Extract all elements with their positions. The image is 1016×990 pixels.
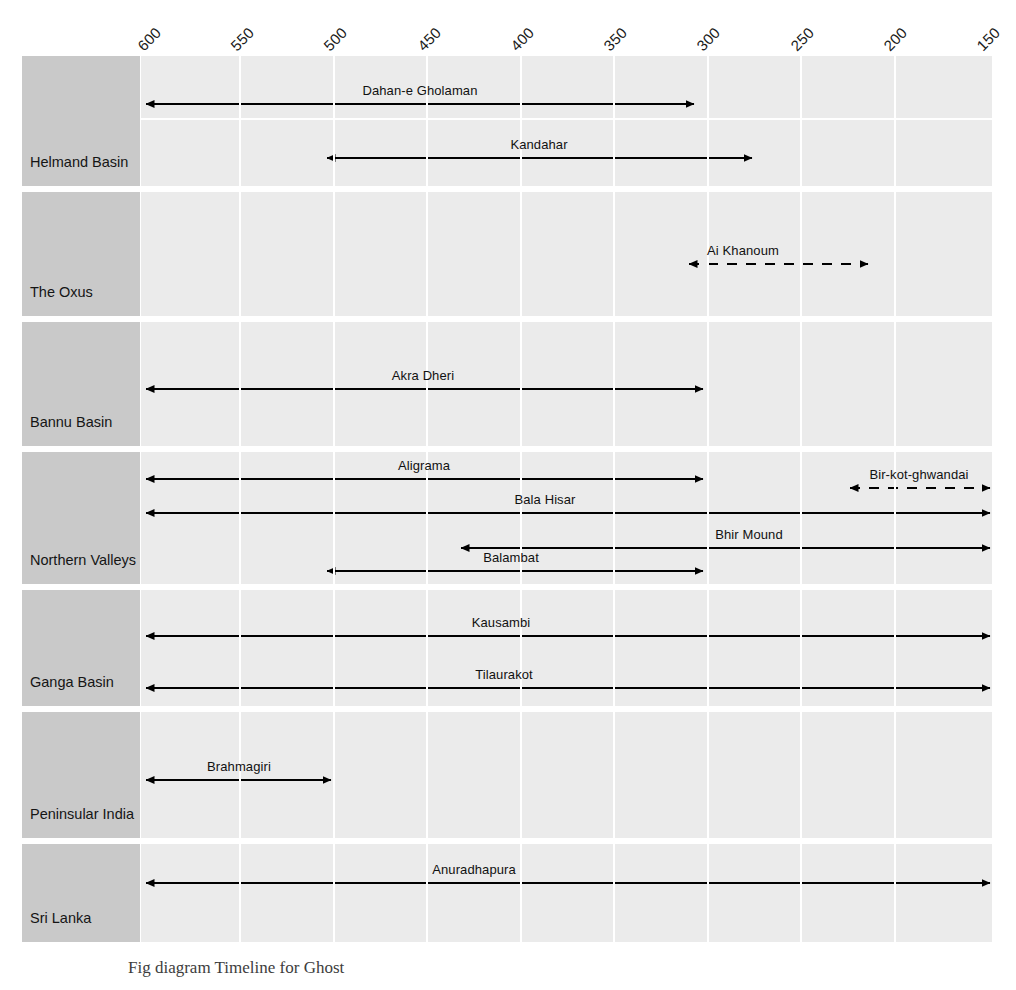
timeline-bar-label-dahan-e-gholaman: Dahan-e Gholaman <box>362 83 477 98</box>
timeline-plot-area: Dahan-e GholamanKandaharAi KhanoumAkra D… <box>141 56 992 942</box>
region-label-text: The Oxus <box>30 283 93 302</box>
region-label-sri-lanka: Sri Lanka <box>22 844 140 942</box>
gridline-550 <box>239 56 241 942</box>
gridline-500 <box>333 56 335 942</box>
region-label-column: Helmand BasinThe OxusBannu BasinNorthern… <box>22 56 140 942</box>
x-axis-tick-labels: 600550500450400350300250200150 <box>0 0 1016 56</box>
axis-tick-400: 400 <box>507 24 537 54</box>
region-label-the-oxus: The Oxus <box>22 192 140 316</box>
axis-tick-500: 500 <box>320 24 350 54</box>
region-label-text: Peninsular India <box>30 805 134 824</box>
plot-band-the-oxus <box>141 192 992 316</box>
axis-tick-600: 600 <box>134 24 164 54</box>
region-label-helmand-basin: Helmand Basin <box>22 56 140 186</box>
region-label-northern-valleys: Northern Valleys <box>22 452 140 584</box>
timeline-bar-label-brahmagiri: Brahmagiri <box>207 759 271 774</box>
region-label-text: Ganga Basin <box>30 673 114 692</box>
plot-band-helmand-basin <box>141 56 992 186</box>
figure-caption: Fig diagram Timeline for Ghost <box>128 958 828 990</box>
timeline-bar-label-balambat: Balambat <box>483 550 539 565</box>
timeline-bar-label-aligrama: Aligrama <box>398 458 450 473</box>
timeline-bar-label-bala-hisar: Bala Hisar <box>515 492 576 507</box>
axis-tick-250: 250 <box>787 24 817 54</box>
region-label-text: Sri Lanka <box>30 909 91 928</box>
plot-band-peninsular-india <box>141 712 992 838</box>
timeline-bar-label-akra-dheri: Akra Dheri <box>392 368 454 383</box>
band-inner-divider <box>141 118 992 120</box>
timeline-bar-label-ai-khanoum: Ai Khanoum <box>707 243 779 258</box>
axis-tick-200: 200 <box>880 24 910 54</box>
axis-tick-350: 350 <box>600 24 630 54</box>
timeline-bar-label-tilaurakot: Tilaurakot <box>475 667 533 682</box>
timeline-bar-label-bhir-mound: Bhir Mound <box>715 527 782 542</box>
gridline-450 <box>426 56 428 942</box>
axis-tick-550: 550 <box>227 24 257 54</box>
plot-band-ganga-basin <box>141 590 992 706</box>
gridline-200 <box>894 56 896 942</box>
gridline-250 <box>800 56 802 942</box>
axis-tick-150: 150 <box>973 24 1003 54</box>
timeline-bar-label-anuradhapura: Anuradhapura <box>432 862 516 877</box>
timeline-bar-label-kausambi: Kausambi <box>472 615 531 630</box>
region-label-text: Northern Valleys <box>30 551 136 570</box>
region-label-peninsular-india: Peninsular India <box>22 712 140 838</box>
plot-band-sri-lanka <box>141 844 992 942</box>
gridline-300 <box>707 56 709 942</box>
region-label-text: Bannu Basin <box>30 413 112 432</box>
region-label-ganga-basin: Ganga Basin <box>22 590 140 706</box>
timeline-bar-label-bir-kot-ghwandai: Bir-kot-ghwandai <box>869 467 968 482</box>
timeline-bar-label-kandahar: Kandahar <box>510 137 567 152</box>
plot-band-northern-valleys <box>141 452 992 584</box>
plot-band-bannu-basin <box>141 322 992 446</box>
gridline-350 <box>613 56 615 942</box>
region-label-text: Helmand Basin <box>30 153 128 172</box>
region-label-bannu-basin: Bannu Basin <box>22 322 140 446</box>
timeline-figure: 600550500450400350300250200150 Helmand B… <box>0 0 1016 990</box>
axis-tick-300: 300 <box>693 24 723 54</box>
axis-tick-450: 450 <box>414 24 444 54</box>
